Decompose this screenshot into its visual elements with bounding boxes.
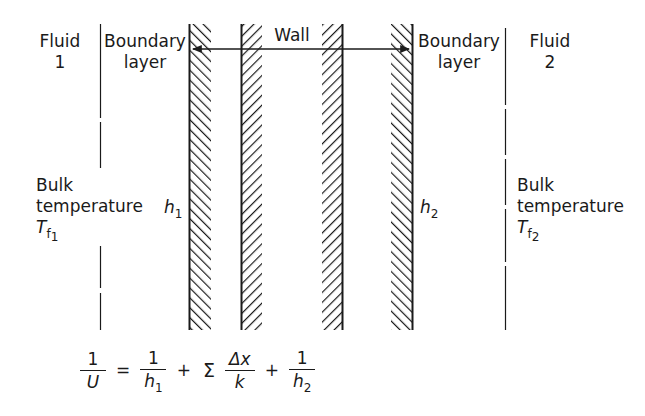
equals-sign: = [116,360,130,380]
boundary-left-line2: layer [101,52,189,73]
lhs-fraction: 1 U [80,349,106,392]
term3-fraction: 1 h2 [289,348,315,393]
bulk-right-line2: temperature [517,196,624,217]
boundary-layer-left-label: Boundary layer [101,31,189,73]
fluid-2-line1: Fluid [520,31,580,52]
fluid-2-label: Fluid 2 [520,31,580,73]
sigma-symbol: Σ [203,359,215,381]
boundary-left-line1: Boundary [101,31,189,52]
term1-fraction: 1 h1 [140,348,166,393]
bulk-right-line1: Bulk [517,175,624,196]
wall-layer-2 [241,24,262,330]
fluid-1-line2: 1 [30,52,90,73]
fluid-1-line1: Fluid [30,31,90,52]
plus-sign-2: + [265,360,279,380]
boundary-right-line1: Boundary [413,31,505,52]
overall-coefficient-equation: 1 U = 1 h1 + Σ Δx k + 1 h2 [76,340,319,400]
bulk-right-symbol: Tf2 [517,217,624,240]
plus-sign-1: + [177,360,191,380]
h2-label: h2 [420,197,438,220]
fluid-2-line2: 2 [520,52,580,73]
bulk-temperature-right: Bulk temperature Tf2 [517,175,624,240]
wall-layer-1 [189,24,211,330]
wall-layer-3 [322,24,343,330]
bulk-temperature-left: Bulk temperature Tf1 [36,175,143,240]
wall-label: Wall [262,25,322,46]
bulk-left-line1: Bulk [36,175,143,196]
fluid-1-label: Fluid 1 [30,31,90,73]
boundary-layer-right-label: Boundary layer [413,31,505,73]
bulk-left-line2: temperature [36,196,143,217]
boundary-right-line2: layer [413,52,505,73]
h1-label: h1 [164,197,182,220]
bulk-left-symbol: Tf1 [36,217,143,240]
term2-fraction: Δx k [225,349,255,392]
wall-layer-4 [391,24,413,330]
